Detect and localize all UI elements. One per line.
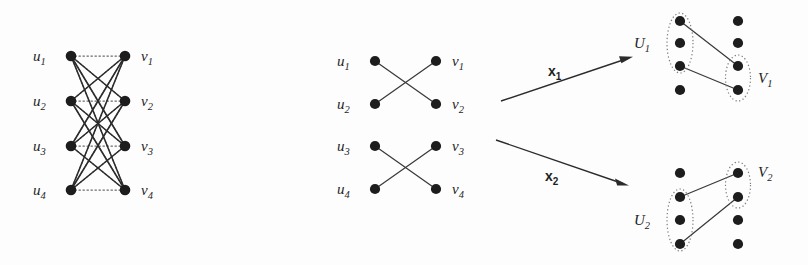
vertex-r3 (733, 215, 743, 225)
vertex-group-right (120, 51, 131, 196)
vertex-v4 (120, 185, 131, 196)
right-vertex-group-x1 (733, 16, 743, 95)
label-u1: u1 (33, 48, 46, 67)
vertex-group-left (66, 51, 77, 196)
vertex-u2 (66, 96, 77, 107)
vertex-r4 (733, 239, 743, 249)
vertex-u4 (370, 184, 380, 194)
vertex-l1 (675, 16, 685, 26)
arrow-head-x2 (615, 179, 629, 186)
label-v4: v4 (141, 182, 154, 201)
solid-edge-group (71, 56, 125, 190)
vertex-r1 (733, 168, 743, 178)
arrow-label-x2: x2 (545, 168, 559, 187)
label-v1: v1 (141, 48, 153, 67)
edge-l2-r1 (680, 173, 738, 197)
label-u3: u3 (33, 138, 46, 157)
matching-vertex-group-left (370, 56, 380, 194)
vertex-l3 (675, 215, 685, 225)
label-u1: u1 (337, 53, 350, 72)
label-u3: u3 (337, 138, 350, 157)
bipartite-decomposition-figure: u1 u2 u3 u4 v1 v2 v3 v4 u1 u2 u3 (0, 0, 808, 265)
vertex-l1 (675, 168, 685, 178)
label-v3: v3 (452, 138, 464, 157)
arrow-x2: x2 (496, 140, 629, 187)
edge-l4-r2 (680, 197, 738, 244)
edge-l1-r3 (680, 21, 738, 66)
label-U2: U2 (634, 212, 651, 231)
label-u2: u2 (33, 93, 47, 112)
label-u2: u2 (337, 96, 351, 115)
vertex-v4 (431, 184, 441, 194)
vertex-l3 (675, 61, 685, 71)
label-V1: V1 (758, 70, 772, 89)
label-v4: v4 (452, 181, 465, 200)
subgraph-x2: U2 V2 (634, 162, 773, 251)
left-vertex-group-x1 (675, 16, 685, 95)
left-vertex-group-x2 (675, 168, 685, 249)
vertex-v2 (431, 99, 441, 109)
vertex-r1 (733, 16, 743, 26)
vertex-l4 (675, 85, 685, 95)
label-v3: v3 (141, 138, 153, 157)
label-u4: u4 (337, 181, 351, 200)
right-vertex-group-x2 (733, 168, 743, 249)
vertex-v1 (120, 51, 131, 62)
matching-vertex-group-right (431, 56, 441, 194)
label-v2: v2 (452, 96, 465, 115)
vertex-u1 (370, 56, 380, 66)
label-v1: v1 (452, 53, 464, 72)
vertex-v3 (431, 141, 441, 151)
vertex-u3 (66, 141, 77, 152)
perfect-matching-graph: u1 u2 u3 u4 v1 v2 v3 v4 (337, 53, 465, 200)
label-U1: U1 (634, 35, 650, 54)
subgraph-x1: U1 V1 (634, 13, 772, 101)
vertex-v2 (120, 96, 131, 107)
arrow-head-x1 (619, 56, 633, 63)
vertex-u3 (370, 141, 380, 151)
label-V2: V2 (758, 164, 773, 183)
vertex-v3 (120, 141, 131, 152)
arrow-x1: x1 (501, 56, 633, 101)
complete-bipartite-graph: u1 u2 u3 u4 v1 v2 v3 v4 (33, 48, 154, 201)
vertex-u4 (66, 185, 77, 196)
vertex-l2 (675, 192, 685, 202)
vertex-u2 (370, 99, 380, 109)
vertex-l4 (675, 239, 685, 249)
vertex-r3 (733, 61, 743, 71)
label-v2: v2 (141, 93, 154, 112)
vertex-u1 (66, 51, 77, 62)
matching-edge-group (375, 61, 436, 189)
vertex-l2 (675, 38, 685, 48)
arrow-label-x1: x1 (548, 63, 562, 82)
vertex-r4 (733, 85, 743, 95)
vertex-r2 (733, 38, 743, 48)
vertex-r2 (733, 192, 743, 202)
vertex-v1 (431, 56, 441, 66)
label-u4: u4 (33, 182, 47, 201)
edge-l3-r4 (680, 66, 738, 90)
